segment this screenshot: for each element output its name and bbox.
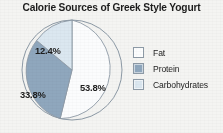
pie-label-carbohydrates: 12.4%: [35, 45, 61, 56]
legend-swatch-carbohydrates: [133, 79, 144, 90]
pie-chart-svg: [21, 19, 123, 121]
legend-swatch-protein: [133, 63, 144, 74]
legend-item-protein[interactable]: Protein: [133, 61, 221, 76]
chart-legend: Fat Protein Carbohydrates: [133, 45, 221, 93]
legend-label-carbohydrates: Carbohydrates: [153, 80, 208, 90]
legend-swatch-fat: [133, 47, 144, 58]
chart-title: Calorie Sources of Greek Style Yogurt: [0, 2, 223, 13]
pie-label-protein: 33.8%: [20, 89, 46, 100]
legend-item-fat[interactable]: Fat: [133, 45, 221, 60]
legend-label-protein: Protein: [153, 64, 180, 74]
pie-chart-plot-area: 12.4% 33.8% 53.8%: [21, 19, 123, 121]
pie-label-fat: 53.8%: [80, 82, 106, 93]
pie-chart-figure: Calorie Sources of Greek Style Yogurt 12…: [0, 0, 223, 133]
legend-label-fat: Fat: [153, 48, 165, 58]
legend-item-carbohydrates[interactable]: Carbohydrates: [133, 77, 221, 92]
